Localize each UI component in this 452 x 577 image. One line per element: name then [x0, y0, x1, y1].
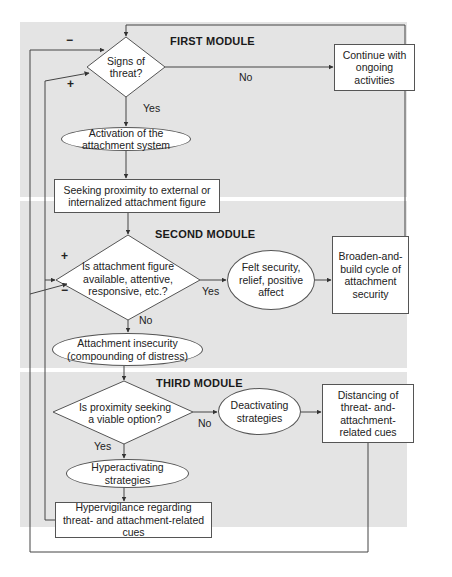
proximity-viable-decision: Is proximity seeking a viable option?: [75, 400, 175, 426]
available-no-label: No: [139, 314, 152, 326]
threat-no-label: No: [239, 71, 252, 83]
broaden-build-box: Broaden-and-build cycle of attachment se…: [332, 236, 409, 314]
continue-activities-box: Continue with ongoing activities: [334, 44, 415, 91]
second-module-title: SECOND MODULE: [155, 228, 255, 240]
seeking-proximity-box: Seeking proximity to external or interna…: [54, 179, 220, 213]
second-plus-sign: +: [61, 249, 68, 263]
hypervigilance-box: Hypervigilance regarding threat- and att…: [55, 502, 212, 538]
first-minus-sign: −: [66, 33, 73, 47]
figure-available-decision: Is attachment figure available, attentiv…: [80, 243, 176, 315]
threat-yes-label: Yes: [143, 102, 160, 114]
first-plus-sign: +: [67, 77, 74, 91]
deactivating-ellipse: Deactivating strategies: [218, 388, 301, 435]
hyperactivating-ellipse: Hyperactivating strategies: [66, 459, 189, 488]
viable-no-label: No: [198, 417, 211, 429]
distancing-box: Distancing of threat- and-attachment-rel…: [322, 384, 414, 443]
third-module-title: THIRD MODULE: [156, 377, 243, 389]
signs-of-threat-decision: Signs of threat?: [102, 52, 150, 82]
viable-yes-label: Yes: [94, 440, 111, 452]
activation-ellipse: Activation of the attachment system: [61, 127, 191, 151]
attachment-insecurity-ellipse: Attachment insecurity (compounding of di…: [52, 333, 203, 366]
felt-security-ellipse: Felt security, relief, positive affect: [227, 250, 315, 310]
second-minus-sign: −: [61, 283, 68, 297]
available-yes-label: Yes: [202, 285, 219, 297]
first-module-title: FIRST MODULE: [170, 35, 255, 47]
